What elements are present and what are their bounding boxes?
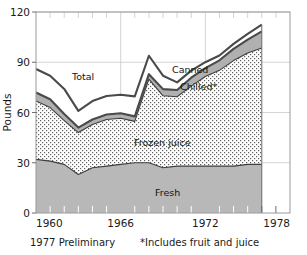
series-label-canned: Canned bbox=[172, 64, 208, 75]
y-axis-title: Pounds bbox=[1, 94, 13, 132]
y-tick-label-120: 120 bbox=[10, 6, 30, 18]
y-axis-ticks bbox=[32, 12, 36, 213]
footnote-includes-fruit-and-juice: *Includes fruit and juice bbox=[140, 237, 259, 248]
y-tick-label-30: 30 bbox=[17, 157, 30, 169]
x-tick-label-1972: 1972 bbox=[192, 217, 219, 229]
y-tick-label-0: 0 bbox=[23, 207, 30, 219]
orange-consumption-area-chart: 120 90 60 30 0 Pounds 1960 1966 1972 197… bbox=[0, 0, 307, 255]
series-label-frozen-juice: Frozen juice bbox=[134, 137, 191, 148]
series-label-chilled: Chilled* bbox=[180, 81, 217, 92]
series-label-fresh: Fresh bbox=[155, 187, 180, 198]
y-tick-label-90: 90 bbox=[17, 56, 30, 68]
footnote-preliminary: 1977 Preliminary bbox=[30, 237, 115, 248]
x-tick-label-1978: 1978 bbox=[263, 217, 290, 229]
x-tick-label-1966: 1966 bbox=[107, 217, 134, 229]
x-tick-label-1960: 1960 bbox=[36, 217, 63, 229]
series-label-total: Total bbox=[71, 71, 94, 82]
y-tick-label-60: 60 bbox=[17, 107, 30, 119]
chart-container: 120 90 60 30 0 Pounds 1960 1966 1972 197… bbox=[0, 0, 307, 255]
